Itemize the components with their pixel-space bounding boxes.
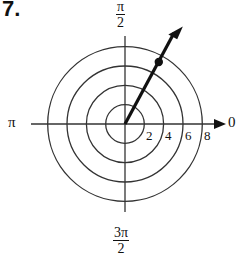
ring-label-4: 4 (165, 128, 172, 144)
angle-label-pi-over-2: π 2 (116, 0, 125, 30)
polar-axes (31, 36, 216, 212)
polar-coordinate-figure: 7. π 2 π 0 3π 2 2 4 6 8 (0, 0, 240, 265)
angle-label-zero: 0 (228, 114, 236, 131)
plotted-point (155, 58, 163, 66)
angle-label-bottom-denominator: 2 (113, 241, 129, 256)
polar-axis-arrowhead-icon (214, 119, 226, 129)
angle-label-top-numerator: π (116, 0, 125, 15)
angle-label-top-denominator: 2 (116, 15, 125, 30)
ring-label-8: 8 (204, 128, 211, 144)
angle-label-bottom-numerator: 3π (113, 225, 129, 241)
ring-label-6: 6 (185, 128, 192, 144)
angle-label-3pi-over-2: 3π 2 (113, 225, 129, 256)
angle-label-pi: π (8, 114, 16, 131)
ring-label-2: 2 (146, 128, 153, 144)
